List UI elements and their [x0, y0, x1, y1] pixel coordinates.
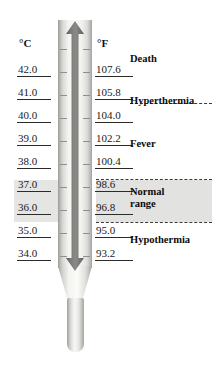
scale-number: 95.0	[95, 224, 133, 237]
tick-left	[60, 95, 67, 96]
tick-right	[83, 256, 90, 257]
scale-value-celsius: 36.0	[17, 201, 51, 215]
scale-value-celsius: 41.0	[17, 86, 51, 100]
scale-value-fahrenheit: 105.8	[95, 86, 133, 100]
scale-value-fahrenheit: 93.2	[95, 247, 133, 261]
scale-value-fahrenheit: 102.2	[95, 132, 133, 146]
thermometer-figure: °C °F 42.0 41.0 40.0 39.0 38.0 37.0 36.0…	[0, 0, 212, 371]
tick-left	[60, 210, 67, 211]
tick-left	[60, 72, 67, 73]
scale-number: 96.8	[95, 201, 133, 214]
scale-value-celsius: 37.0	[17, 178, 51, 192]
scale-number: 107.6	[95, 63, 133, 76]
scale-value-fahrenheit: 107.6	[95, 63, 133, 77]
scale-rule	[17, 76, 51, 77]
scale-value-fahrenheit: 98.6	[95, 178, 133, 192]
scale-number: 102.2	[95, 132, 133, 145]
scale-rule	[95, 99, 133, 100]
zone-label-normal: Normal	[130, 186, 164, 198]
zone-label-death: Death	[130, 53, 157, 65]
tick-right	[83, 118, 90, 119]
scale-rule	[17, 260, 51, 261]
tick-right	[83, 233, 90, 234]
scale-number: 93.2	[95, 247, 133, 260]
scale-number: 39.0	[17, 132, 51, 145]
scale-value-celsius: 40.0	[17, 109, 51, 123]
zone-label-hyperthermia: Hyperthermia	[130, 95, 194, 107]
thermometer-taper	[58, 266, 92, 302]
scale-rule	[95, 237, 133, 238]
scale-rule	[17, 168, 51, 169]
scale-value-celsius: 38.0	[17, 155, 51, 169]
arrow-shape	[66, 21, 84, 271]
tick-right	[83, 95, 90, 96]
scale-rule	[95, 260, 133, 261]
scale-rule	[17, 145, 51, 146]
scale-number: 36.0	[17, 201, 51, 214]
zone-divider-normal-top	[96, 179, 212, 180]
tick-left	[60, 118, 67, 119]
scale-value-celsius: 35.0	[17, 224, 51, 238]
zone-label-normal-line2: range	[130, 198, 156, 210]
scale-number: 42.0	[17, 63, 51, 76]
scale-number: 104.0	[95, 109, 133, 122]
tick-left	[60, 233, 67, 234]
thermometer-bulb	[67, 298, 84, 352]
mercury-arrow-icon	[66, 21, 84, 271]
zone-label-fever: Fever	[130, 138, 156, 150]
scale-number: 100.4	[95, 155, 133, 168]
scale-rule	[95, 191, 133, 192]
scale-value-fahrenheit: 104.0	[95, 109, 133, 123]
tick-right	[83, 72, 90, 73]
scale-rule	[95, 214, 133, 215]
scale-rule	[95, 122, 133, 123]
scale-value-fahrenheit: 95.0	[95, 224, 133, 238]
scale-value-celsius: 42.0	[17, 63, 51, 77]
scale-rule	[17, 122, 51, 123]
scale-value-celsius: 39.0	[17, 132, 51, 146]
tick-right	[83, 187, 90, 188]
scale-number: 105.8	[95, 86, 133, 99]
fahrenheit-unit-label: °F	[97, 37, 108, 49]
taper-shape	[58, 266, 92, 302]
scale-number: 40.0	[17, 109, 51, 122]
scale-rule	[17, 99, 51, 100]
tick-right	[83, 49, 90, 50]
tick-left	[60, 141, 67, 142]
scale-number: 38.0	[17, 155, 51, 168]
zone-label-hypothermia: Hypothermia	[130, 234, 190, 246]
scale-number: 41.0	[17, 86, 51, 99]
scale-number: 37.0	[17, 178, 51, 191]
celsius-unit-label: °C	[19, 37, 31, 49]
scale-rule	[17, 237, 51, 238]
scale-number: 35.0	[17, 224, 51, 237]
zone-divider-normal-bottom	[96, 222, 212, 223]
scale-value-celsius: 34.0	[17, 247, 51, 261]
scale-rule	[95, 168, 133, 169]
tick-left	[60, 256, 67, 257]
scale-rule	[17, 214, 51, 215]
scale-rule	[95, 145, 133, 146]
tick-right	[83, 210, 90, 211]
scale-value-fahrenheit: 100.4	[95, 155, 133, 169]
scale-value-fahrenheit: 96.8	[95, 201, 133, 215]
tick-left	[60, 187, 67, 188]
tick-left	[60, 164, 67, 165]
tick-right	[83, 164, 90, 165]
tick-left	[60, 49, 67, 50]
tick-right	[83, 141, 90, 142]
scale-number: 34.0	[17, 247, 51, 260]
scale-rule	[95, 76, 133, 77]
scale-rule	[17, 191, 51, 192]
